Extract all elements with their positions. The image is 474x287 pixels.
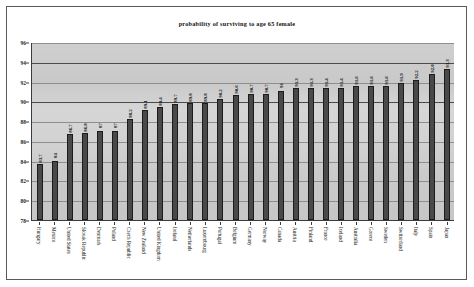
x-axis-slot: Austria <box>288 222 303 280</box>
x-axis-slot: Norway <box>258 222 273 280</box>
bar[interactable] <box>429 74 435 220</box>
x-axis-category-label: Australia <box>353 227 359 245</box>
x-axis-tickmark <box>265 222 266 225</box>
x-axis-slot: Hungary <box>31 222 46 280</box>
y-axis-tickmark <box>26 62 29 63</box>
bar[interactable] <box>398 83 404 220</box>
bar[interactable] <box>52 161 58 220</box>
bar[interactable] <box>353 86 359 220</box>
x-axis-tickmark <box>114 222 115 225</box>
x-axis-slot: France <box>318 222 333 280</box>
x-axis-category-label: United States <box>66 227 72 254</box>
bar[interactable] <box>278 91 284 220</box>
x-axis: HungaryMexicoUnited StatesSlovak Republi… <box>31 222 454 280</box>
bar-slot: 84 <box>47 43 62 220</box>
x-axis-category-label: Luxembourg <box>202 227 208 253</box>
x-axis-tickmark <box>129 222 130 225</box>
bar-value-label: 91.3 <box>293 79 298 87</box>
y-axis-tickmark <box>26 181 29 182</box>
x-axis-category-label: United Kingdom <box>156 227 162 261</box>
bar-value-label: 89.8 <box>188 94 193 102</box>
x-axis-slot: Slovak Republic <box>76 222 91 280</box>
x-axis-tickmark <box>69 222 70 225</box>
bar[interactable] <box>37 164 43 220</box>
bar-value-label: 86.8 <box>82 123 87 131</box>
x-axis-slot: Czech Republic <box>122 222 137 280</box>
bar-slot: 91.3 <box>303 43 318 220</box>
x-axis-slot: Spain <box>424 222 439 280</box>
bar[interactable] <box>323 88 329 221</box>
chart-title: probability of surviving to age 65 femal… <box>0 20 474 27</box>
bar-slot: 92.8 <box>424 43 439 220</box>
x-axis-category-label: Hungary <box>36 227 42 244</box>
bar-value-label: 90.6 <box>233 86 238 94</box>
x-axis-tickmark <box>295 222 296 225</box>
bar[interactable] <box>383 86 389 220</box>
bar[interactable] <box>97 131 103 220</box>
bar-value-label: 89.4 <box>158 98 163 106</box>
bar-slot: 90.7 <box>243 43 258 220</box>
x-axis-slot: Iceland <box>333 222 348 280</box>
x-axis-tickmark <box>99 222 100 225</box>
x-axis-tickmark <box>280 222 281 225</box>
bar-slot: 89.4 <box>153 43 168 220</box>
bar[interactable] <box>112 131 118 220</box>
bar[interactable] <box>82 133 88 220</box>
bar[interactable] <box>338 88 344 221</box>
x-axis-slot: Canada <box>273 222 288 280</box>
x-axis-slot: Germany <box>243 222 258 280</box>
bar-series: 83.78486.786.8878788.289.189.489.789.889… <box>32 43 454 220</box>
bar[interactable] <box>127 119 133 220</box>
x-axis-tickmark <box>341 222 342 225</box>
bar[interactable] <box>233 95 239 220</box>
bar-value-label: 91.6 <box>384 76 389 84</box>
x-axis-category-label: Iceland <box>338 227 344 242</box>
bar[interactable] <box>293 88 299 220</box>
x-axis-slot: Belgium <box>227 222 242 280</box>
bar-value-label: 84 <box>52 153 57 158</box>
bar[interactable] <box>67 134 73 220</box>
x-axis-slot: Japan <box>439 222 454 280</box>
bar[interactable] <box>413 80 419 220</box>
bar-slot: 92.2 <box>409 43 424 220</box>
bar[interactable] <box>263 94 269 220</box>
x-axis-slot: Ireland <box>167 222 182 280</box>
x-axis-tickmark <box>356 222 357 225</box>
x-axis-slot: Switzerland <box>394 222 409 280</box>
x-axis-category-label: Netherlands <box>187 227 193 251</box>
bar[interactable] <box>157 107 163 220</box>
bar-slot: 87 <box>107 43 122 220</box>
bar[interactable] <box>217 99 223 220</box>
x-axis-slot: United Kingdom <box>152 222 167 280</box>
x-axis-tickmark <box>447 222 448 225</box>
bar-value-label: 87 <box>97 123 102 128</box>
x-axis-category-label: Poland <box>111 227 117 241</box>
x-axis-category-label: Greece <box>368 227 374 241</box>
bar-slot: 91.6 <box>379 43 394 220</box>
x-axis-tickmark <box>250 222 251 225</box>
x-axis-slot: New Zealand <box>137 222 152 280</box>
y-axis-tickmark <box>26 102 29 103</box>
x-axis-tickmark <box>220 222 221 225</box>
bar[interactable] <box>368 86 374 220</box>
bar[interactable] <box>308 88 314 220</box>
x-axis-tickmark <box>205 222 206 225</box>
y-axis-tickmark <box>26 122 29 123</box>
bar-slot: 87 <box>92 43 107 220</box>
bar[interactable] <box>142 110 148 220</box>
bar[interactable] <box>187 103 193 220</box>
y-axis-tickmark <box>26 161 29 162</box>
bar[interactable] <box>202 103 208 220</box>
bar[interactable] <box>172 104 178 220</box>
bar-slot: 89.7 <box>168 43 183 220</box>
bar[interactable] <box>444 69 450 220</box>
bar-value-label: 89.7 <box>173 95 178 103</box>
bar-value-label: 83.7 <box>37 154 42 162</box>
bar[interactable] <box>248 94 254 220</box>
bar-slot: 90.2 <box>213 43 228 220</box>
x-axis-category-label: Norway <box>262 227 268 243</box>
bar-value-label: 91.4 <box>324 78 329 86</box>
x-axis-category-label: Finland <box>308 227 314 242</box>
bar-value-label: 91.3 <box>308 79 313 87</box>
x-axis-category-label: Japan <box>444 227 450 238</box>
